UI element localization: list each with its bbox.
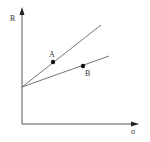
point-a (51, 60, 55, 64)
point-a-label: A (49, 50, 55, 59)
risk-return-diagram: R σ A B (0, 0, 150, 142)
point-b-label: B (85, 69, 90, 78)
point-b (81, 64, 85, 68)
x-axis-arrow-icon (131, 122, 139, 127)
y-axis-arrow-icon (20, 7, 25, 15)
y-axis-label: R (10, 14, 16, 23)
lower-line (22, 56, 109, 87)
x-axis-label: σ (131, 127, 136, 136)
